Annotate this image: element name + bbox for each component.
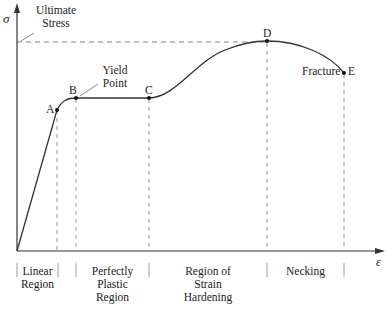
yield-point-label: Yield Point — [98, 64, 132, 90]
ultimate-stress-label: Ultimate Stress — [33, 4, 79, 30]
x-axis-arrow-icon — [375, 248, 385, 254]
stress-strain-diagram — [0, 0, 387, 310]
point-b-label: B — [69, 84, 77, 97]
fracture-label: Fracture — [302, 65, 340, 78]
yield-point-pointer — [80, 84, 98, 96]
point-e-label: E — [348, 65, 355, 78]
region-strain-hardening: Region of Strain Hardening — [149, 265, 267, 304]
stress-strain-curve — [17, 41, 344, 251]
point-c-label: C — [145, 84, 153, 97]
y-axis-label: σ — [3, 12, 9, 25]
region-necking: Necking — [267, 265, 344, 278]
region-linear: Linear Region — [17, 265, 58, 291]
x-axis-label: ε — [376, 256, 381, 269]
ultimate-stress-pointer — [21, 33, 34, 41]
y-axis-arrow-icon — [14, 3, 20, 13]
region-perfectly-plastic: Perfectly Plastic Region — [76, 265, 149, 304]
point-d-label: D — [263, 27, 271, 40]
point-a-label: A — [46, 103, 54, 116]
